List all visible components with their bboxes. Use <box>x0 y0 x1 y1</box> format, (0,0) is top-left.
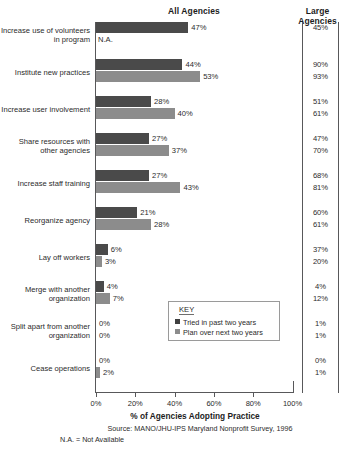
na-label: N.A. <box>98 35 113 44</box>
large-value-tried: 4% <box>303 282 338 291</box>
category-label: Institute new practices <box>0 68 90 77</box>
large-value-plan: 70% <box>303 146 338 155</box>
x-tick-label-20: 20% <box>118 399 152 408</box>
chart-row: Cease operations0%2% <box>0 355 347 392</box>
chart-row: Institute new practices44%53% <box>0 59 347 96</box>
x-tick-label-0: 0% <box>79 399 113 408</box>
large-value-tried: 60% <box>303 208 338 217</box>
bar-value-tried: 6% <box>111 245 122 254</box>
x-tick-label-40: 40% <box>158 399 192 408</box>
bar-value-plan: 28% <box>154 220 169 229</box>
bar-plan <box>96 71 200 82</box>
large-value-plan: 20% <box>303 257 338 266</box>
bar-value-plan: 40% <box>178 109 193 118</box>
legend-box: KEY Tried in past two years Plan over ne… <box>168 301 280 341</box>
category-label: Merge with another organization <box>0 285 90 304</box>
large-value-tried: 37% <box>303 245 338 254</box>
column-header-all-agencies: All Agencies <box>96 6 292 16</box>
category-label: Split apart from another organization <box>0 322 90 341</box>
x-tick-80 <box>253 392 254 397</box>
large-value-plan: 1% <box>303 331 338 340</box>
category-label: Cease operations <box>0 364 90 373</box>
bar-value-tried: 4% <box>107 282 118 291</box>
category-label: Increase staff training <box>0 179 90 188</box>
bar-value-plan: 53% <box>203 72 218 81</box>
x-tick-label-80: 80% <box>236 399 270 408</box>
na-note: N.A. = Not Available <box>60 435 340 444</box>
chart-row: Increase staff training27%43% <box>0 170 347 207</box>
large-value-tried: 68% <box>303 171 338 180</box>
bar-tried <box>96 281 104 292</box>
bar-value-tried: 27% <box>152 171 167 180</box>
bar-value-plan: 37% <box>172 146 187 155</box>
bar-plan <box>96 293 110 304</box>
bar-value-plan: 43% <box>183 183 198 192</box>
chart-row: Increase use of volunteers in program47%… <box>0 22 347 59</box>
bar-value-plan: 2% <box>103 368 114 377</box>
bar-value-tried: 0% <box>99 356 110 365</box>
bar-value-tried: 28% <box>154 97 169 106</box>
bar-tried <box>96 244 108 255</box>
chart-row: Lay off workers6%3% <box>0 244 347 281</box>
bar-tried <box>96 207 137 218</box>
large-value-plan: 12% <box>303 294 338 303</box>
category-label: Reorganize agency <box>0 216 90 225</box>
chart-row: Share resources with other agencies27%37… <box>0 133 347 170</box>
category-label: Increase use of volunteers in program <box>0 26 90 45</box>
chart-container: All Agencies Large Agencies 0%20%40%60%8… <box>0 0 347 460</box>
large-value-plan: 81% <box>303 183 338 192</box>
legend-swatch-tried-icon <box>175 319 180 324</box>
large-value-tried: 51% <box>303 97 338 106</box>
bar-value-plan: 3% <box>105 257 116 266</box>
bar-tried <box>96 22 188 33</box>
bar-tried <box>96 96 151 107</box>
bar-plan <box>96 182 180 193</box>
bar-value-tried: 27% <box>152 134 167 143</box>
bar-plan <box>96 256 102 267</box>
legend-label-tried: Tried in past two years <box>183 318 256 327</box>
category-label: Lay off workers <box>0 253 90 262</box>
bar-plan <box>96 219 151 230</box>
legend-label-plan: Plan over next two years <box>183 328 263 337</box>
large-value-tried: 45% <box>303 23 338 32</box>
large-value-plan: 93% <box>303 72 338 81</box>
bar-value-tried: 0% <box>99 319 110 328</box>
legend-swatch-plan-icon <box>175 329 180 334</box>
x-tick-20 <box>135 392 136 397</box>
large-value-plan: 61% <box>303 220 338 229</box>
x-tick-label-100: 100% <box>276 399 310 408</box>
category-label: Share resources with other agencies <box>0 137 90 156</box>
bar-plan <box>96 145 169 156</box>
large-value-plan: 61% <box>303 109 338 118</box>
source-note: Source: MANO/JHU-IPS Maryland Nonprofit … <box>60 424 340 433</box>
large-value-tried: 90% <box>303 60 338 69</box>
bar-value-plan: 7% <box>113 294 124 303</box>
bar-value-tried: 44% <box>185 60 200 69</box>
large-value-plan: 1% <box>303 368 338 377</box>
legend-title: KEY <box>179 305 194 315</box>
bar-tried <box>96 59 182 70</box>
bar-plan <box>96 108 175 119</box>
x-tick-40 <box>175 392 176 397</box>
legend-item-tried: Tried in past two years <box>175 318 256 327</box>
bar-value-tried: 21% <box>140 208 155 217</box>
bar-value-tried: 47% <box>191 23 206 32</box>
category-label: Increase user involvement <box>0 105 90 114</box>
x-axis-line <box>96 392 293 393</box>
chart-row: Increase user involvement28%40% <box>0 96 347 133</box>
bar-value-plan: 0% <box>99 331 110 340</box>
chart-row: Reorganize agency21%28% <box>0 207 347 244</box>
bar-tried <box>96 170 149 181</box>
large-value-tried: 1% <box>303 319 338 328</box>
bar-plan <box>96 367 100 378</box>
x-tick-label-60: 60% <box>197 399 231 408</box>
large-value-tried: 47% <box>303 134 338 143</box>
x-axis-label: % of Agencies Adopting Practice <box>60 411 330 421</box>
bar-tried <box>96 133 149 144</box>
legend-item-plan: Plan over next two years <box>175 328 263 337</box>
x-tick-60 <box>214 392 215 397</box>
x-tick-0 <box>96 392 97 397</box>
large-value-tried: 0% <box>303 356 338 365</box>
